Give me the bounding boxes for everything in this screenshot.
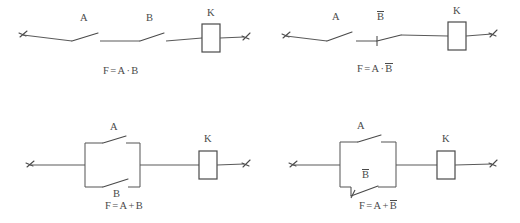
switch-b-not-label-text: B xyxy=(362,169,369,181)
switch-a-label: A xyxy=(357,121,365,132)
switch-b-not[interactable] xyxy=(351,186,378,198)
figure-canvas: A B K F=A·B A B K F=A·B xyxy=(0,0,520,223)
formula-term2: B xyxy=(390,200,397,212)
relay-coil-k-label: K xyxy=(442,134,450,145)
relay-coil-k[interactable] xyxy=(437,151,455,179)
switch-b-not-label: B xyxy=(362,169,369,181)
formula-parallel-a-or-notb: F=A+B xyxy=(359,200,397,212)
terminal-right-icon xyxy=(489,160,497,167)
formula-operator: + xyxy=(381,200,389,211)
terminal-left-icon xyxy=(289,161,297,167)
circuit-parallel-a-or-notb-graphics xyxy=(0,0,520,223)
switch-a[interactable] xyxy=(358,135,381,142)
wire-segment xyxy=(455,164,492,165)
